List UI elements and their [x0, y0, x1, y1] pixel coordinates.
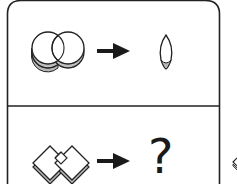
right-arrow-icon — [97, 43, 130, 59]
lens-intersection-icon — [160, 35, 172, 69]
analogy-puzzle-frame — [0, 0, 237, 184]
partial-diamond-option-icon — [233, 155, 237, 173]
unknown-answer-mark: ? — [148, 128, 173, 184]
two-overlapping-circles-icon — [32, 32, 84, 72]
right-arrow-icon — [97, 153, 130, 169]
two-overlapping-diamonds-icon — [33, 146, 89, 184]
